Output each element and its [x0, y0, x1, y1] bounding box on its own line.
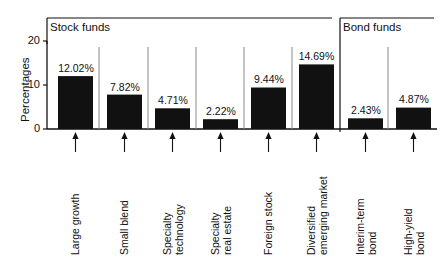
y-axis	[43, 41, 47, 129]
y-tick-label-10: 10	[12, 78, 40, 90]
category-label-line: emerging market	[318, 176, 330, 255]
category-label-high-yield-bond: High-yield bond	[403, 208, 426, 255]
y-tick-label-0: 0	[12, 122, 40, 134]
category-label-line: Foreign stock	[263, 192, 275, 255]
bar-chart: Percentages 20 10 0 Stock funds Bond fun…	[0, 0, 448, 264]
up-arrow-icon-5	[313, 132, 319, 152]
bar-high-yield-bond	[396, 108, 431, 129]
bar-value-label-specialty-technology: 4.71%	[149, 94, 197, 106]
bar-foreign-stock	[251, 88, 286, 130]
bar-value-label-large-growth: 12.02%	[52, 62, 100, 74]
up-arrow-icon-3	[217, 132, 223, 152]
category-label-line: technology	[174, 204, 186, 255]
category-label-line: Specialty	[210, 206, 222, 255]
bar-value-label-small-blend: 7.82%	[101, 81, 149, 93]
category-label-small-blend: Small blend	[119, 200, 131, 255]
up-arrow-icon-0	[72, 132, 78, 152]
bar-value-label-interim-term-bond: 2.43%	[342, 104, 390, 116]
category-label-line: High-yield	[403, 208, 415, 255]
category-pointer-arrows	[72, 132, 416, 152]
y-tick-label-20: 20	[12, 34, 40, 46]
bar-large-growth	[58, 76, 93, 129]
category-label-foreign-stock: Foreign stock	[263, 192, 275, 255]
up-arrow-icon-1	[121, 132, 127, 152]
bar-diversified-emerging-market	[299, 64, 334, 129]
category-label-interim-term-bond: Interim-term bond	[355, 198, 378, 255]
bar-interim-term-bond	[348, 118, 383, 129]
bar-value-label-specialty-real-estate: 2.22%	[197, 105, 245, 117]
bar-value-label-high-yield-bond: 4.87%	[390, 93, 438, 105]
category-label-line: bond	[367, 198, 379, 255]
category-label-line: bond	[415, 208, 427, 255]
category-label-line: Small blend	[119, 200, 131, 255]
bar-specialty-real-estate	[203, 119, 238, 129]
up-arrow-icon-6	[362, 132, 368, 152]
bar-specialty-technology	[155, 108, 190, 129]
up-arrow-icon-7	[410, 132, 416, 152]
category-label-large-growth: Large growth	[70, 194, 82, 255]
category-label-line: Interim-term	[355, 198, 367, 255]
bar-value-label-foreign-stock: 9.44%	[245, 73, 293, 85]
category-label-specialty-real-estate: Specialty real estate	[210, 206, 233, 255]
category-label-line: Large growth	[70, 194, 82, 255]
category-label-line: real estate	[222, 206, 234, 255]
category-label-specialty-technology: Specialty technology	[162, 204, 185, 255]
category-label-line: Specialty	[162, 204, 174, 255]
up-arrow-icon-2	[169, 132, 175, 152]
up-arrow-icon-4	[265, 132, 271, 152]
category-label-diversified-emerging-market: Diversified emerging market	[306, 176, 329, 255]
group-label-stock-funds: Stock funds	[50, 21, 110, 33]
category-label-line: Diversified	[306, 176, 318, 255]
group-label-bond-funds: Bond funds	[343, 21, 401, 33]
bar-small-blend	[107, 95, 142, 129]
bar-value-label-diversified-emerging-market: 14.69%	[290, 50, 343, 62]
